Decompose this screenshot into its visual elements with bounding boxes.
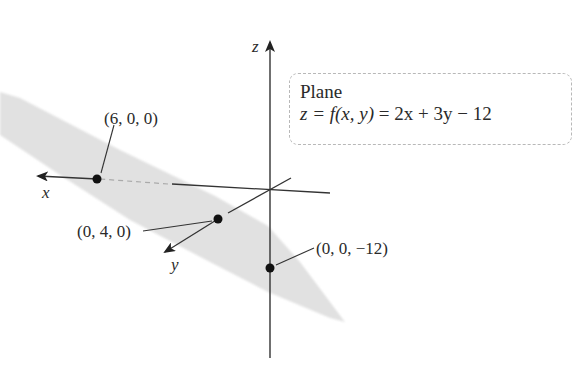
point-label-y-intercept: (0, 4, 0)	[77, 223, 131, 240]
x-axis-label: x	[42, 184, 50, 201]
point-y-intercept	[214, 215, 223, 224]
point-z-intercept	[266, 264, 275, 273]
equation-lhs: z = f(x, y)	[300, 103, 374, 124]
equation-rhs: = 2x + 3y − 12	[379, 103, 492, 124]
y-axis-label: y	[171, 256, 179, 273]
point-label-x-intercept: (6, 0, 0)	[104, 110, 158, 127]
equation-title: Plane	[300, 81, 571, 103]
point-label-z-intercept: (0, 0, −12)	[316, 240, 388, 257]
equation-text: z = f(x, y) = 2x + 3y − 12	[300, 103, 571, 125]
plane-diagram	[0, 0, 582, 390]
z-axis-label: z	[252, 38, 259, 55]
equation-box: Plane z = f(x, y) = 2x + 3y − 12	[289, 73, 572, 145]
point-x-intercept	[93, 175, 102, 184]
